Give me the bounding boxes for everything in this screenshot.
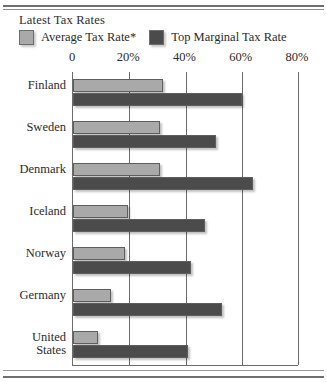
category-label: Denmark	[2, 163, 66, 176]
bar-average-tax-rate	[73, 289, 111, 302]
category-label: Iceland	[2, 205, 66, 218]
legend-swatch-top-marginal-tax-rate	[149, 30, 164, 45]
category-label: Sweden	[2, 121, 66, 134]
bar-row: Norway	[73, 245, 298, 287]
bar-row: Iceland	[73, 203, 298, 245]
bar-average-tax-rate	[73, 163, 160, 176]
bar-top-marginal-tax-rate	[73, 303, 222, 316]
x-tick-label-1: 20%	[117, 50, 140, 65]
chart-title: Latest Tax Rates	[19, 13, 105, 28]
x-tick-label-4: 80%	[286, 50, 309, 65]
bar-average-tax-rate	[73, 79, 163, 92]
x-tick-label-3: 60%	[229, 50, 252, 65]
x-tick-label-2: 40%	[173, 50, 196, 65]
bar-top-marginal-tax-rate	[73, 177, 253, 190]
bar-average-tax-rate	[73, 331, 98, 344]
legend-swatch-average-tax-rate	[19, 30, 34, 45]
bar-top-marginal-tax-rate	[73, 345, 188, 358]
bar-row: Denmark	[73, 161, 298, 203]
x-tick-label-0: 0	[69, 50, 75, 65]
bottom-rule-thick	[3, 376, 324, 378]
bar-top-marginal-tax-rate	[73, 135, 216, 148]
gridline-80	[298, 72, 299, 365]
category-label: Norway	[2, 247, 66, 260]
chart-legend: Average Tax Rate* Top Marginal Tax Rate	[19, 30, 287, 45]
bar-average-tax-rate	[73, 121, 160, 134]
x-axis-baseline	[72, 365, 298, 366]
legend-item-average-tax-rate: Average Tax Rate*	[19, 30, 136, 45]
bottom-rule-thin	[3, 370, 324, 371]
bar-top-marginal-tax-rate	[73, 93, 242, 106]
bar-row: Sweden	[73, 119, 298, 161]
top-rule-thin	[3, 9, 324, 10]
plot-area: FinlandSwedenDenmarkIcelandNorwayGermany…	[72, 72, 298, 365]
category-label: Germany	[2, 289, 66, 302]
bar-average-tax-rate	[73, 205, 128, 218]
figure: Latest Tax Rates Average Tax Rate* Top M…	[0, 0, 327, 383]
bar-row: Germany	[73, 287, 298, 329]
legend-label-average-tax-rate: Average Tax Rate*	[41, 30, 136, 45]
bar-top-marginal-tax-rate	[73, 219, 205, 232]
bar-top-marginal-tax-rate	[73, 261, 191, 274]
top-rule-thick	[3, 5, 324, 7]
category-label: Finland	[2, 79, 66, 92]
bar-average-tax-rate	[73, 247, 125, 260]
bar-row: Finland	[73, 77, 298, 119]
category-label: UnitedStates	[2, 331, 66, 357]
legend-label-top-marginal-tax-rate: Top Marginal Tax Rate	[171, 30, 286, 45]
legend-item-top-marginal-tax-rate: Top Marginal Tax Rate	[149, 30, 286, 45]
